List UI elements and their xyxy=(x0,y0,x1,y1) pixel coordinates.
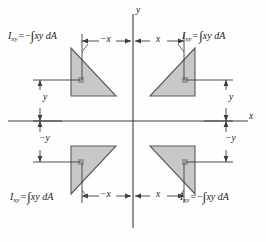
dim-label-bottom-pos-x: x xyxy=(156,190,160,200)
integral-icon: ∫ xyxy=(199,28,203,43)
dim-label-bottom-neg-x: −x xyxy=(100,190,111,200)
formula-bottom-right: Ixy=−∫xy dA xyxy=(180,192,229,204)
shape-top-left xyxy=(71,48,116,96)
shape-bottom-left xyxy=(71,146,116,194)
formula-bottom-left-integrand: xy dA xyxy=(31,191,54,202)
shape-bottom-right xyxy=(150,146,195,194)
formula-top-left-subscript: xy xyxy=(11,35,17,43)
dim-label-top-neg-x: −x xyxy=(100,35,111,45)
shape-top-right xyxy=(150,48,195,96)
figure-canvas: y x Ixy=−∫xy dA Ixy=∫xy dA Ixy=∫xy dA Ix… xyxy=(0,0,266,242)
formula-top-left: Ixy=−∫xy dA xyxy=(8,31,57,43)
integral-icon: ∫ xyxy=(27,189,31,204)
x-axis-label: x xyxy=(249,112,253,122)
dim-label-top-pos-x: x xyxy=(156,35,160,45)
formula-top-left-sign: − xyxy=(25,30,31,41)
dim-label-right-pos-y: y xyxy=(229,93,233,103)
formula-top-right-subscript: xy xyxy=(185,35,191,43)
y-axis-label: y xyxy=(136,6,140,16)
dim-label-left-neg-y: −y xyxy=(39,134,50,144)
formula-bottom-right-sign: − xyxy=(197,191,203,202)
formula-bottom-left-subscript: xy xyxy=(13,196,19,204)
formula-top-right-integrand: xy dA xyxy=(203,30,226,41)
formula-top-left-integrand: xy dA xyxy=(34,30,57,41)
integral-icon: ∫ xyxy=(203,189,207,204)
formula-bottom-right-integrand: xy dA xyxy=(206,191,229,202)
formula-bottom-left: Ixy=∫xy dA xyxy=(10,192,53,204)
formula-top-right: Ixy=∫xy dA xyxy=(182,31,225,43)
integral-icon: ∫ xyxy=(31,28,35,43)
dim-label-left-pos-y: y xyxy=(43,93,47,103)
dim-label-right-neg-y: −y xyxy=(225,134,236,144)
formula-bottom-right-subscript: xy xyxy=(183,196,189,204)
